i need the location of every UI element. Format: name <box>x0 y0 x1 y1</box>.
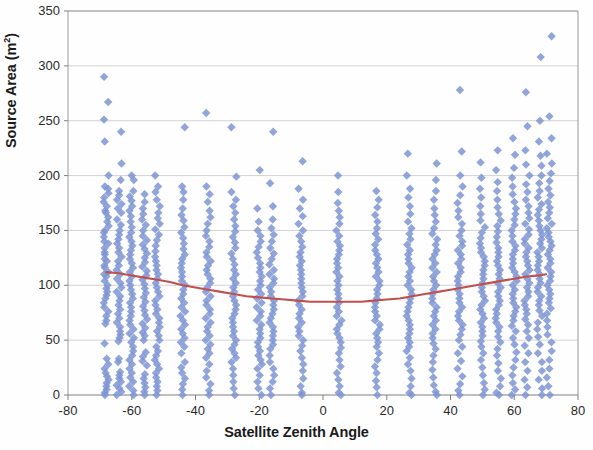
y-tick-label: 150 <box>16 222 60 237</box>
x-tick-label: 0 <box>303 403 343 418</box>
y-tick-label: 200 <box>16 168 60 183</box>
y-axis-title-superscript: 2 <box>2 38 12 43</box>
y-tick-label: 0 <box>16 387 60 402</box>
y-tick-label: 250 <box>16 113 60 128</box>
x-tick-label: 80 <box>558 403 593 418</box>
y-tick-label: 50 <box>16 332 60 347</box>
x-tick-label: 20 <box>367 403 407 418</box>
y-tick-label: 100 <box>16 277 60 292</box>
scatter-plot-canvas <box>0 0 593 450</box>
y-tick-label: 350 <box>16 3 60 18</box>
y-tick-label: 300 <box>16 58 60 73</box>
x-tick-label: 40 <box>431 403 471 418</box>
data-points <box>99 32 556 399</box>
chart-figure: Source Area (m2) 050100150200250300350 -… <box>0 0 593 450</box>
x-axis-title: Satellite Zenith Angle <box>0 424 593 440</box>
x-tick-label: -80 <box>48 403 88 418</box>
x-tick-label: -20 <box>239 403 279 418</box>
x-tick-label: -40 <box>176 403 216 418</box>
y-axis-title-tail: ) <box>3 33 19 38</box>
x-tick-label: -60 <box>112 403 152 418</box>
x-tick-label: 60 <box>494 403 534 418</box>
